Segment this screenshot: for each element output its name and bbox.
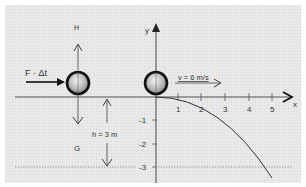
diagram-canvas: x y 1 2 3 4 5 -1 -2 -3 <box>0 0 306 187</box>
trajectory-curve <box>156 97 272 178</box>
gravity-label: G <box>74 144 80 153</box>
y-tick-label: -3 <box>139 163 147 172</box>
y-ticks <box>152 120 156 167</box>
force-label: F · Δt <box>25 68 48 78</box>
height-label: h = 3 m <box>92 130 117 139</box>
y-tick-label: -2 <box>139 140 147 149</box>
x-tick-label: 3 <box>223 105 228 114</box>
force-arrow-icon <box>57 78 65 86</box>
y-axis-label: y <box>145 26 149 35</box>
y-tick-label: -1 <box>139 116 147 125</box>
x-tick-label: 4 <box>247 105 252 114</box>
x-tick-label: 5 <box>270 105 275 114</box>
x-tick-label: 2 <box>199 105 204 114</box>
x-tick-label: 1 <box>176 105 181 114</box>
x-axis-label: x <box>293 100 297 109</box>
y-axis-arrow-icon <box>152 23 160 32</box>
velocity-label: v = 6 m/s <box>178 73 209 82</box>
projectile-diagram: x y 1 2 3 4 5 -1 -2 -3 <box>0 0 306 187</box>
lift-label: H <box>74 24 79 31</box>
